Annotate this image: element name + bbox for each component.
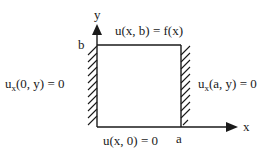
right-insulation-hatching: [181, 46, 190, 125]
x-axis-arrow-icon: [226, 122, 238, 132]
right-bc-base: u: [198, 76, 205, 91]
right-bc-subscript: x: [205, 83, 210, 93]
bottom-boundary-condition: u(x, 0) = 0: [103, 134, 158, 147]
left-bc-rest: (0, y) = 0: [16, 76, 65, 91]
x-axis-label: x: [243, 120, 250, 133]
left-bc-base: u: [5, 76, 12, 91]
x-tick-label-a: a: [176, 132, 182, 145]
y-tick-label-b: b: [78, 38, 85, 51]
y-axis-label: y: [94, 8, 101, 21]
right-bc-rest: (a, y) = 0: [209, 76, 257, 91]
boundary-value-diagram: y x b a u(x, b) = f(x) u(x, 0) = 0 ux(0,…: [0, 0, 276, 154]
y-axis-arrow-icon: [92, 24, 102, 35]
left-bc-subscript: x: [12, 83, 17, 93]
top-boundary-condition: u(x, b) = f(x): [115, 24, 183, 37]
left-boundary-condition: ux(0, y) = 0: [5, 77, 65, 90]
left-insulation-hatching: [88, 46, 97, 125]
right-boundary-condition: ux(a, y) = 0: [198, 77, 257, 90]
